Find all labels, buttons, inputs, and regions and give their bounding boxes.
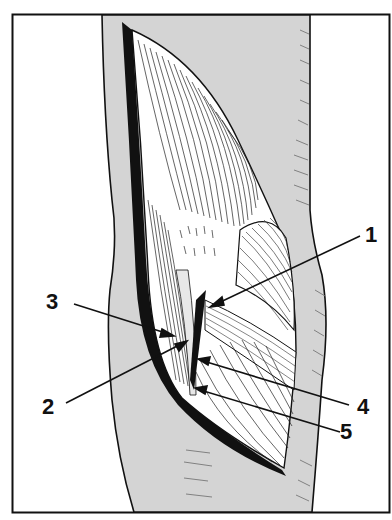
- label-5: 5: [340, 421, 352, 443]
- label-4: 4: [357, 396, 369, 418]
- label-3: 3: [46, 291, 58, 313]
- tendon-zone: [172, 218, 228, 262]
- label-2: 2: [42, 396, 54, 418]
- label-1: 1: [365, 224, 377, 246]
- anatomical-figure: [0, 0, 392, 520]
